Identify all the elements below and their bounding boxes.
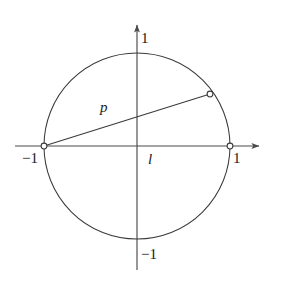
point-one-marker bbox=[227, 143, 233, 149]
x-axis-left-tick-label: −1 bbox=[22, 151, 38, 166]
point-minus-one-marker bbox=[41, 143, 47, 149]
chord-p-line bbox=[44, 94, 210, 146]
x-axis-right-tick-label: 1 bbox=[233, 151, 241, 166]
y-axis-bottom-tick-label: −1 bbox=[141, 247, 157, 262]
point-chord-end-marker bbox=[207, 91, 213, 97]
unit-circle-figure: 1 −1 −1 1 l p bbox=[0, 0, 282, 285]
chord-p-label: p bbox=[100, 100, 108, 115]
y-axis-top-tick-label: 1 bbox=[141, 31, 149, 46]
line-l-label: l bbox=[148, 152, 152, 167]
